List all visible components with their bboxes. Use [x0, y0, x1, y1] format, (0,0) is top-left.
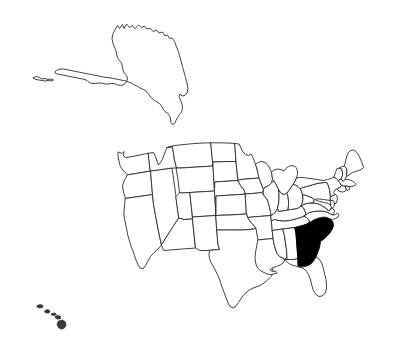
hawaii-island-kauai [37, 305, 43, 309]
hawaii-island-oahu [45, 310, 51, 314]
alaska-aleutian-islands [34, 77, 54, 82]
state-kansas[interactable] [216, 194, 247, 216]
hawaii-island-hawaii [57, 320, 66, 329]
state-idaho[interactable] [149, 147, 177, 171]
state-minnesota[interactable] [235, 144, 259, 181]
inset-alaska[interactable] [34, 24, 189, 125]
state-wyoming[interactable] [177, 166, 215, 193]
state-maine[interactable] [345, 150, 364, 176]
hawaii-island-maui [55, 316, 61, 320]
state-colorado[interactable] [190, 191, 216, 217]
hawaii-island-molokai [52, 313, 57, 316]
state-alaska[interactable] [55, 24, 188, 125]
inset-hawaii[interactable] [37, 305, 66, 330]
state-oregon[interactable] [123, 171, 153, 199]
state-washington[interactable] [118, 152, 151, 175]
united-states-map [0, 0, 396, 353]
state-new-mexico[interactable] [193, 216, 220, 251]
map-figure [0, 0, 396, 353]
